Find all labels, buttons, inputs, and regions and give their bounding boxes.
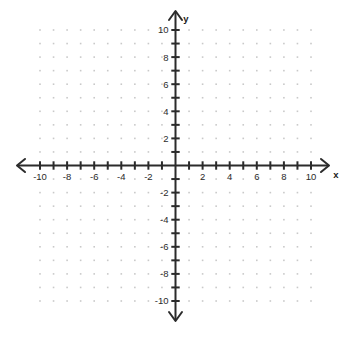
- y-axis-tick-label: -10: [155, 295, 169, 306]
- grid-dot: [256, 56, 258, 58]
- grid-dot: [256, 151, 258, 153]
- grid-dot: [39, 43, 41, 45]
- grid-dot: [256, 70, 258, 72]
- grid-dot: [107, 124, 109, 126]
- grid-dot: [107, 287, 109, 289]
- grid-dot: [66, 246, 68, 248]
- grid-dot: [242, 246, 244, 248]
- grid-dot: [256, 260, 258, 262]
- grid-dot: [297, 29, 299, 31]
- grid-dot: [80, 70, 82, 72]
- grid-dot: [310, 29, 312, 31]
- grid-dot: [107, 219, 109, 221]
- grid-dot: [256, 43, 258, 45]
- grid-dot: [188, 29, 190, 31]
- grid-dot: [121, 246, 123, 248]
- grid-dot: [310, 260, 312, 262]
- grid-dot: [134, 219, 136, 221]
- grid-dot: [215, 205, 217, 207]
- grid-dot: [242, 97, 244, 99]
- grid-dot: [80, 29, 82, 31]
- grid-dot: [188, 56, 190, 58]
- grid-dot: [188, 83, 190, 85]
- grid-dot: [188, 192, 190, 194]
- grid-dot: [93, 29, 95, 31]
- y-axis-tick-label: -2: [160, 187, 168, 198]
- grid-dot: [148, 111, 150, 113]
- grid-dot: [107, 192, 109, 194]
- grid-dot: [39, 273, 41, 275]
- grid-dot: [107, 151, 109, 153]
- grid-dot: [93, 232, 95, 234]
- grid-dot: [66, 219, 68, 221]
- grid-dot: [161, 97, 163, 99]
- grid-dot: [242, 56, 244, 58]
- grid-dot: [107, 56, 109, 58]
- grid-dot: [53, 70, 55, 72]
- grid-dot: [134, 260, 136, 262]
- x-axis-tick-label: 6: [254, 171, 259, 182]
- grid-dot: [188, 124, 190, 126]
- grid-dot: [161, 43, 163, 45]
- grid-dot: [80, 232, 82, 234]
- grid-dot: [121, 151, 123, 153]
- grid-dot: [256, 111, 258, 113]
- grid-dot: [256, 300, 258, 302]
- grid-dot: [242, 192, 244, 194]
- grid-dot: [256, 205, 258, 207]
- grid-dot: [121, 232, 123, 234]
- grid-dot: [229, 232, 231, 234]
- grid-dot: [188, 300, 190, 302]
- grid-dot: [134, 287, 136, 289]
- grid-dot: [66, 83, 68, 85]
- grid-dot: [53, 260, 55, 262]
- grid-dot: [121, 43, 123, 45]
- grid-dot: [134, 246, 136, 248]
- grid-dot: [39, 97, 41, 99]
- y-axis-tick-label: 2: [163, 133, 168, 144]
- y-axis-tick-label: -8: [160, 268, 168, 279]
- grid-dot: [256, 192, 258, 194]
- x-axis-tick-label: -6: [90, 171, 98, 182]
- grid-dot: [80, 260, 82, 262]
- grid-dot: [53, 29, 55, 31]
- grid-dot: [202, 124, 204, 126]
- grid-dot: [93, 56, 95, 58]
- grid-dot: [121, 300, 123, 302]
- grid-dot: [93, 260, 95, 262]
- grid-dot: [107, 138, 109, 140]
- grid-dot: [80, 138, 82, 140]
- grid-dot: [148, 287, 150, 289]
- grid-dot: [134, 178, 136, 180]
- grid-dot: [202, 260, 204, 262]
- grid-dot: [148, 124, 150, 126]
- grid-dot: [93, 138, 95, 140]
- grid-dot: [297, 178, 299, 180]
- grid-dot: [283, 219, 285, 221]
- x-axis-tick-label: -4: [117, 171, 125, 182]
- grid-dot: [66, 192, 68, 194]
- grid-dot: [297, 124, 299, 126]
- grid-dot: [161, 260, 163, 262]
- grid-dot: [256, 29, 258, 31]
- grid-dot: [256, 219, 258, 221]
- grid-dot: [283, 300, 285, 302]
- grid-dot: [39, 124, 41, 126]
- grid-dot: [215, 111, 217, 113]
- grid-dot: [297, 192, 299, 194]
- grid-dot: [121, 29, 123, 31]
- grid-dot: [242, 111, 244, 113]
- grid-dot: [297, 300, 299, 302]
- grid-dot: [202, 219, 204, 221]
- coordinate-plane: -10-8-6-4-2246810108642-2-4-6-8-10 x y: [0, 0, 347, 342]
- grid-dot: [93, 273, 95, 275]
- grid-dot: [148, 138, 150, 140]
- grid-dot: [283, 111, 285, 113]
- grid-dot: [53, 178, 55, 180]
- grid-dot: [256, 232, 258, 234]
- grid-dot: [242, 300, 244, 302]
- grid-dot: [66, 300, 68, 302]
- grid-dot: [310, 43, 312, 45]
- grid-dot: [188, 232, 190, 234]
- grid-dot: [188, 273, 190, 275]
